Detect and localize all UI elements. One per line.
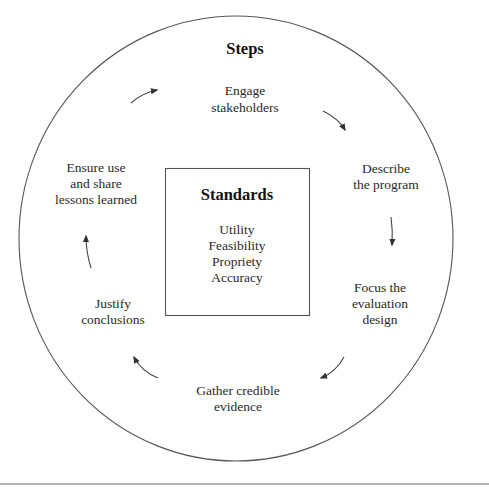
steps-title: Steps <box>226 39 264 58</box>
step-label-line: lessons learned <box>55 192 137 207</box>
step-label-line: Gather credible <box>196 383 280 398</box>
step-gather-credible-evidence: Gather credible evidence <box>196 383 280 414</box>
arrow-engage-to-describe-icon <box>323 111 345 130</box>
step-label-line: evidence <box>214 399 262 414</box>
step-label-line: Justify <box>95 296 131 311</box>
step-label-line: Engage <box>225 83 265 98</box>
standard-item: Utility <box>219 222 255 237</box>
arrow-gather-to-justify-icon <box>134 357 158 378</box>
step-label-line: Focus the <box>354 280 406 295</box>
step-ensure-use-share-lessons: Ensure use and share lessons learned <box>55 160 137 207</box>
arrow-focus-to-gather-icon <box>321 357 344 378</box>
standards-box: Standards Utility Feasibility Propriety … <box>166 169 310 316</box>
step-engage-stakeholders: Engage stakeholders <box>211 83 278 115</box>
step-label-line: design <box>362 312 397 327</box>
standard-item: Propriety <box>212 254 262 269</box>
step-label-line: evaluation <box>352 296 408 311</box>
step-describe-program: Describe the program <box>353 161 419 192</box>
arrow-describe-to-focus-icon <box>391 217 392 245</box>
step-focus-evaluation-design: Focus the evaluation design <box>352 280 408 327</box>
standard-item: Accuracy <box>211 270 263 285</box>
step-justify-conclusions: Justify conclusions <box>81 296 145 327</box>
step-label-line: conclusions <box>81 312 145 327</box>
step-label-line: Ensure use <box>67 160 126 175</box>
step-label-line: and share <box>70 176 121 191</box>
standard-item: Feasibility <box>209 238 266 253</box>
arrow-justify-to-ensure-icon <box>86 236 91 268</box>
standards-title: Standards <box>201 185 274 204</box>
step-label-line: the program <box>353 177 419 192</box>
arrow-ensure-to-engage-icon <box>131 90 157 103</box>
framework-diagram: Steps Engage stakeholders Describe the p… <box>0 0 489 489</box>
step-label-line: Describe <box>362 161 410 176</box>
step-label-line: stakeholders <box>211 100 278 115</box>
